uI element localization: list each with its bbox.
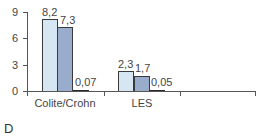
y-tick-9 [23, 12, 27, 13]
bar-value-label: 1,7 [135, 63, 150, 74]
y-tick-3 [23, 65, 27, 66]
x-tick [255, 91, 256, 96]
y-tick-label-6: 6 [4, 33, 18, 44]
y-axis [27, 12, 28, 92]
y-tick-label-9: 9 [4, 7, 18, 18]
bar-colite-crohn-series2 [57, 27, 73, 91]
bar-colite-crohn-series1 [42, 19, 58, 91]
bar-colite-crohn-series3 [73, 90, 89, 91]
bar-les-series2 [134, 76, 150, 91]
bar-value-label: 0,05 [151, 77, 172, 88]
y-tick-label-0: 0 [4, 86, 18, 97]
x-axis [27, 91, 256, 92]
y-tick-6 [23, 38, 27, 39]
bar-value-label: 2,3 [118, 59, 133, 70]
category-label-colite-crohn: Colite/Crohn [34, 97, 96, 109]
bar-les-series1 [118, 71, 134, 91]
x-tick [180, 91, 181, 96]
category-label-les: LES [124, 97, 160, 109]
y-tick-label-3: 3 [4, 60, 18, 71]
x-tick [27, 91, 28, 96]
bar-chart: 0 3 6 9 8,2 7,3 0,07 2,3 1,7 0,05 Colite… [0, 0, 261, 140]
x-tick [104, 91, 105, 96]
bar-value-label: 8,2 [42, 7, 57, 18]
bar-value-label: 7,3 [60, 15, 75, 26]
bar-value-label: 0,07 [75, 77, 96, 88]
panel-label: D [4, 121, 13, 136]
bar-les-series3 [149, 90, 165, 91]
